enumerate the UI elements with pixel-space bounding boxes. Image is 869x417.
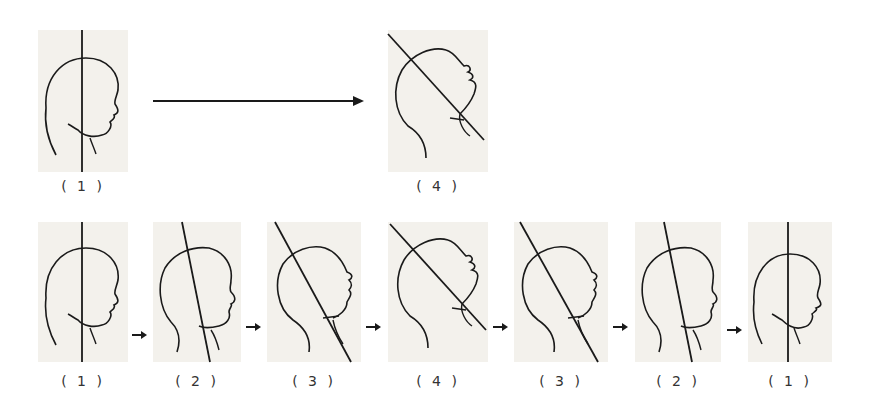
step-label: ( 1 ) — [750, 373, 830, 389]
head-tilt-slight-icon — [635, 222, 721, 362]
head-tilt-medium-icon — [514, 222, 608, 362]
step-label: ( 1 ) — [43, 373, 123, 389]
step-label: ( 1 ) — [43, 178, 123, 194]
head-upright-icon — [748, 222, 832, 362]
head-upright-icon — [38, 30, 128, 172]
head-tilt-medium-icon — [267, 222, 361, 362]
step-label: ( 4 ) — [398, 373, 478, 389]
head-tilted-back-icon — [388, 222, 488, 362]
head-panel — [38, 222, 128, 362]
head-panel — [388, 30, 488, 172]
head-panel — [38, 30, 128, 172]
arrow-right-icon — [613, 322, 629, 332]
step-label: ( 3 ) — [274, 373, 354, 389]
head-panel — [635, 222, 721, 362]
long-arrow-icon — [153, 95, 365, 107]
arrow-right-icon — [493, 322, 509, 332]
head-panel — [153, 222, 241, 362]
head-panel — [514, 222, 608, 362]
arrow-right-icon — [132, 330, 148, 340]
arrow-right-icon — [727, 325, 743, 335]
head-panel — [388, 222, 488, 362]
arrow-right-icon — [366, 322, 382, 332]
step-label: ( 3 ) — [521, 373, 601, 389]
step-label: ( 2 ) — [157, 373, 237, 389]
head-tilted-back-icon — [388, 30, 488, 172]
head-panel — [267, 222, 361, 362]
head-panel — [748, 222, 832, 362]
arrow-right-icon — [246, 322, 262, 332]
head-tilt-slight-icon — [153, 222, 241, 362]
step-label: ( 2 ) — [638, 373, 718, 389]
step-label: ( 4 ) — [398, 178, 478, 194]
head-upright-icon — [38, 222, 128, 362]
